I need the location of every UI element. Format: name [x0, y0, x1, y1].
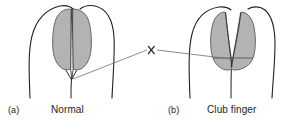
normal-midline-crease: [71, 79, 72, 98]
window-annotation-leaders: [73, 46, 231, 79]
normal-finger-drawing: [29, 6, 114, 98]
club-nail-plate-right: [231, 12, 255, 70]
club-nail-plate-left: [211, 12, 233, 70]
window-marker-x-icon: [148, 46, 154, 53]
panel-label-b: (b): [168, 105, 179, 115]
club-finger-drawing: [189, 7, 275, 98]
panel-caption-club-finger: Club finger: [207, 104, 256, 115]
panel-caption-normal: Normal: [51, 104, 84, 115]
figure-container: (a) Normal (b) Club finger: [0, 0, 297, 128]
normal-nail-plate-right: [72, 9, 91, 70]
panel-label-a: (a): [8, 105, 19, 115]
normal-nail-plate-left: [53, 9, 72, 70]
